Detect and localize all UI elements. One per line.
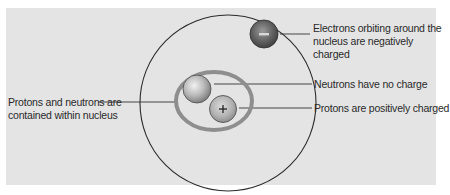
electron-label-line2: nucleus are negatively charged [313, 35, 450, 61]
neutron-label: Neutrons have no charge [314, 78, 427, 91]
neutron-particle [183, 75, 211, 103]
electron-label-line1: Electrons orbiting around the [313, 22, 450, 35]
proton-label-line1: Protons are positively charged [314, 102, 449, 115]
electron-particle [250, 20, 278, 48]
proton-particle [210, 96, 237, 123]
electron-label: Electrons orbiting around the nucleus ar… [313, 22, 450, 61]
proton-label: Protons are positively charged [314, 102, 449, 115]
neutron-label-line1: Neutrons have no charge [314, 78, 427, 91]
nucleus-label: Protons and neutrons are contained withi… [8, 96, 100, 122]
nucleus-label-line1: Protons and neutrons are [8, 96, 100, 109]
nucleus-label-line2: contained within nucleus [8, 109, 100, 122]
